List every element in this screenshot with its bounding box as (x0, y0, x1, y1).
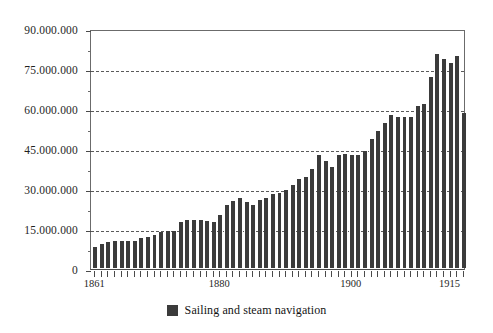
x-tick (364, 271, 365, 277)
bar (429, 77, 434, 268)
bar (337, 155, 342, 268)
bar (297, 179, 302, 268)
x-tick (351, 271, 352, 277)
x-tick (200, 271, 201, 277)
x-tick (318, 271, 319, 277)
x-tick (259, 271, 260, 277)
plot-area (90, 30, 465, 270)
bar (383, 123, 388, 268)
x-tick (344, 271, 345, 277)
legend-swatch-icon (167, 305, 178, 316)
y-minor-tick (88, 211, 91, 212)
bar (205, 221, 210, 268)
x-tick (436, 271, 437, 277)
bar (251, 205, 256, 268)
x-tick (404, 271, 405, 277)
bar-chart-figure: 015.000.00030.000.00045.000.00060.000.00… (0, 0, 493, 333)
y-major-tick (86, 191, 91, 192)
x-tick (463, 271, 464, 277)
chart-legend: Sailing and steam navigation (0, 303, 493, 318)
bar (258, 200, 263, 268)
bar (403, 117, 408, 268)
y-minor-tick (88, 131, 91, 132)
bar (146, 237, 151, 268)
x-tick (134, 271, 135, 277)
x-tick (193, 271, 194, 277)
x-tick (390, 271, 391, 277)
x-tick (107, 271, 108, 277)
x-tick (186, 271, 187, 277)
x-tick (272, 271, 273, 277)
x-tick (397, 271, 398, 277)
y-tick-label: 45.000.000 (24, 144, 78, 156)
bar (284, 190, 289, 268)
bar (264, 198, 269, 268)
bar (278, 193, 283, 268)
bar (330, 167, 335, 268)
bar (120, 241, 125, 268)
x-tick (114, 271, 115, 277)
x-tick (180, 271, 181, 277)
bar (291, 185, 296, 268)
x-tick (213, 271, 214, 277)
x-tick (239, 271, 240, 277)
y-major-tick (86, 111, 91, 112)
y-minor-tick (88, 171, 91, 172)
x-tick (154, 271, 155, 277)
x-tick (265, 271, 266, 277)
bar (442, 59, 447, 268)
x-tick-label: 1915 (439, 278, 460, 289)
bar (389, 115, 394, 268)
bar (159, 232, 164, 268)
bar (304, 177, 309, 268)
x-axis-ticks (91, 271, 465, 278)
y-major-tick (86, 231, 91, 232)
y-major-tick (86, 31, 91, 32)
x-tick (285, 271, 286, 277)
bar (271, 194, 276, 268)
bar (172, 231, 177, 268)
x-tick (377, 271, 378, 277)
x-tick (450, 271, 451, 277)
bar (422, 104, 427, 268)
bar (238, 198, 243, 268)
bar (409, 117, 414, 268)
bar (225, 205, 230, 268)
y-tick-label: 15.000.000 (24, 224, 78, 236)
x-tick (101, 271, 102, 277)
x-tick (298, 271, 299, 277)
bar (416, 106, 421, 268)
x-tick (94, 271, 95, 277)
x-tick (371, 271, 372, 277)
x-tick (160, 271, 161, 277)
y-minor-tick (88, 51, 91, 52)
bar (245, 202, 250, 268)
bar (310, 169, 315, 268)
bar (449, 63, 454, 268)
bar (218, 215, 223, 268)
bar (153, 235, 158, 268)
x-tick (246, 271, 247, 277)
bar (192, 220, 197, 268)
x-tick (311, 271, 312, 277)
legend-item: Sailing and steam navigation (167, 303, 327, 318)
y-major-tick (86, 71, 91, 72)
bar (455, 56, 460, 268)
x-tick (252, 271, 253, 277)
bar (462, 113, 467, 268)
x-tick (140, 271, 141, 277)
x-tick (279, 271, 280, 277)
x-tick (417, 271, 418, 277)
bar (139, 238, 144, 268)
bar (199, 220, 204, 268)
bar (185, 220, 190, 268)
y-tick-label: 60.000.000 (24, 104, 78, 116)
y-tick-label: 75.000.000 (24, 64, 78, 76)
bar (396, 117, 401, 268)
y-minor-tick (88, 251, 91, 252)
x-tick (167, 271, 168, 277)
bar (370, 139, 375, 268)
bar (376, 131, 381, 268)
x-tick (305, 271, 306, 277)
legend-item-label: Sailing and steam navigation (185, 303, 327, 318)
